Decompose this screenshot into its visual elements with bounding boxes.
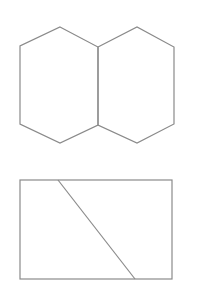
geometry-figure (0, 0, 198, 297)
